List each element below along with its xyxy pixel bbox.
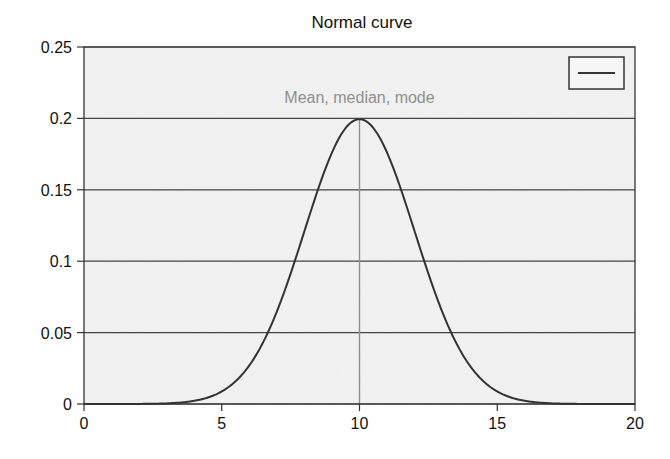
y-tick-label: 0.25 [41,39,72,56]
x-tick-label: 0 [80,415,89,432]
y-tick-label: 0.05 [41,325,72,342]
y-tick-label: 0.1 [50,253,72,270]
legend [569,57,624,89]
y-tick-label: 0.15 [41,182,72,199]
y-tick-label: 0 [63,396,72,413]
x-axis: 05101520 [80,404,644,432]
x-tick-label: 15 [488,415,506,432]
y-axis: 00.050.10.150.20.25 [41,39,84,413]
chart-title: Normal curve [311,13,412,32]
x-tick-label: 20 [626,415,644,432]
x-tick-label: 5 [217,415,226,432]
normal-curve-chart: Normal curve 00.050.10.150.20.25 0510152… [0,0,670,459]
mean-annotation: Mean, median, mode [284,89,434,106]
y-tick-label: 0.2 [50,110,72,127]
x-tick-label: 10 [351,415,369,432]
